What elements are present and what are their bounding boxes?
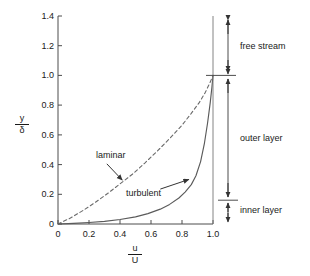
y-axis-label-denominator: δ [17, 126, 26, 135]
x-tick-label-0.2: 0.2 [77, 230, 101, 239]
y-axis-label: y δ [15, 114, 29, 136]
x-tick-label-0.8: 0.8 [170, 230, 194, 239]
x-axis-label-numerator: u [130, 244, 139, 253]
y-axis-label-numerator: y [18, 114, 27, 123]
y-tick-label-1.2: 1.2 [28, 42, 54, 51]
y-tick-label-0.6: 0.6 [28, 131, 54, 140]
y-tick-label-0.2: 0.2 [28, 190, 54, 199]
laminar-curve-label: laminar [96, 151, 126, 160]
turbulent-curve-line [58, 75, 213, 224]
y-tick-label-0.8: 0.8 [28, 101, 54, 110]
y-tick-label-1.4: 1.4 [28, 12, 54, 21]
x-axis-label-denominator: U [130, 256, 141, 265]
outer-layer-label: outer layer [240, 134, 283, 143]
y-axis-ticks [58, 16, 62, 224]
y-tick-label-0.4: 0.4 [28, 161, 54, 170]
boundary-layer-velocity-profile-chart: 1.4 1.2 1.0 0.8 0.6 0.4 0.2 0 0 0.2 0.4 … [0, 0, 310, 276]
y-tick-label-0: 0 [28, 220, 54, 229]
x-tick-label-0.6: 0.6 [139, 230, 163, 239]
x-tick-label-0: 0 [48, 230, 68, 239]
laminar-annotation-arrow [107, 164, 123, 180]
x-tick-label-1.0: 1.0 [201, 230, 225, 239]
laminar-curve-line [58, 75, 213, 224]
turbulent-curve-label: turbulent [126, 189, 161, 198]
y-tick-label-1.0: 1.0 [28, 71, 54, 80]
turbulent-annotation-arrow [160, 179, 189, 189]
free-stream-label: free stream [240, 42, 286, 51]
inner-layer-label: inner layer [240, 206, 282, 215]
x-tick-label-0.4: 0.4 [108, 230, 132, 239]
x-axis-label: u U [128, 244, 142, 266]
